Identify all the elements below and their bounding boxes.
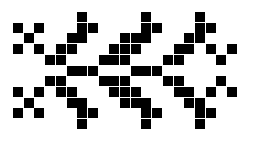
pattern-cell [131,66,141,76]
pattern-cell [56,55,66,65]
pattern-cell [67,87,77,97]
pattern-cell [77,23,87,33]
pattern-cell [163,55,173,65]
pattern-cell [109,55,119,65]
pattern-cell [67,33,77,43]
pattern-cell [184,98,194,108]
pattern-cell [195,12,205,22]
pattern-cell [141,33,151,43]
pattern-cell [120,87,130,97]
pattern-cell [131,98,141,108]
pattern-cell [67,44,77,54]
pattern-cell [109,87,119,97]
pattern-cell [120,55,130,65]
pattern-cell [88,66,98,76]
pattern-cell [34,108,44,118]
pattern-cell [141,23,151,33]
pattern-cell [24,98,34,108]
pattern-cell [131,44,141,54]
pattern-cell [131,33,141,43]
pattern-cell [141,98,151,108]
pattern-cell [206,108,216,118]
pixel-pattern [0,0,257,148]
pattern-cell [77,108,87,118]
pattern-cell [109,44,119,54]
pattern-cell [141,12,151,22]
pattern-cell [13,44,23,54]
pattern-cell [77,66,87,76]
pattern-cell [216,76,226,86]
pattern-cell [56,76,66,86]
pattern-cell [206,44,216,54]
pattern-cell [141,66,151,76]
pattern-cell [24,33,34,43]
pattern-cell [174,87,184,97]
pattern-cell [174,76,184,86]
pattern-cell [99,55,109,65]
pattern-cell [34,44,44,54]
pattern-cell [13,87,23,97]
pattern-cell [88,23,98,33]
pattern-cell [206,87,216,97]
pattern-cell [141,119,151,129]
pattern-cell [184,44,194,54]
pattern-cell [77,98,87,108]
pattern-cell [141,108,151,118]
pattern-cell [13,23,23,33]
pattern-cell [120,44,130,54]
pattern-cell [174,44,184,54]
pattern-cell [195,33,205,43]
pattern-cell [174,55,184,65]
pattern-cell [99,76,109,86]
pattern-cell [163,76,173,86]
pattern-cell [88,108,98,118]
pattern-cell [152,23,162,33]
pattern-cell [195,119,205,129]
pattern-cell [45,76,55,86]
pattern-cell [131,87,141,97]
pattern-cell [45,55,55,65]
pattern-cell [67,66,77,76]
pattern-cell [109,76,119,86]
pattern-cell [120,33,130,43]
pattern-cell [227,87,237,97]
pattern-cell [34,23,44,33]
pattern-cell [195,98,205,108]
pattern-cell [195,108,205,118]
pattern-cell [152,108,162,118]
pattern-cell [56,87,66,97]
pattern-cell [184,87,194,97]
pattern-cell [67,98,77,108]
pattern-cell [77,33,87,43]
pattern-cell [34,87,44,97]
pattern-cell [77,12,87,22]
pattern-cell [120,98,130,108]
pattern-cell [56,44,66,54]
pattern-cell [13,108,23,118]
pattern-cell [216,55,226,65]
pattern-cell [184,33,194,43]
pattern-cell [152,66,162,76]
pattern-cell [120,76,130,86]
pattern-cell [227,44,237,54]
pattern-cell [77,119,87,129]
pattern-cell [195,23,205,33]
pattern-cell [206,23,216,33]
